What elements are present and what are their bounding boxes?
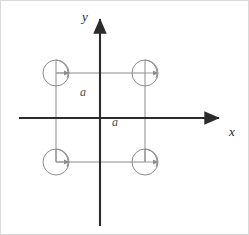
- y-axis-label: y: [82, 10, 88, 23]
- side-length-label-vertical: a: [80, 86, 86, 98]
- bottom-left-loop: [43, 149, 69, 175]
- side-length-label-horizontal: a: [112, 116, 118, 128]
- diagram-svg: [1, 1, 249, 235]
- x-axis-label: x: [229, 125, 235, 138]
- figure-canvas: y x a a: [0, 0, 249, 235]
